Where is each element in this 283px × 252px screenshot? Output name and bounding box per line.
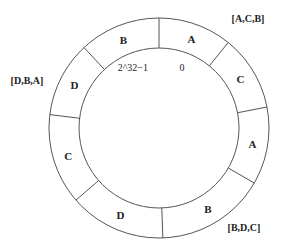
segment-divider — [76, 180, 99, 200]
replica-group-label: [D,B,A] — [11, 75, 44, 86]
segment-dividers — [50, 18, 267, 238]
replica-group-label: [A,C,B] — [232, 13, 265, 24]
segment-divider — [84, 48, 104, 70]
outer-ring — [49, 18, 269, 238]
segment-label-b: B — [204, 203, 212, 215]
segment-labels: ACABDCDB — [64, 33, 256, 221]
segment-label-b: B — [120, 34, 128, 46]
segment-label-c: C — [64, 150, 72, 162]
segment-divider — [162, 208, 163, 238]
segment-divider — [50, 115, 80, 119]
segment-label-a: A — [188, 33, 196, 45]
segment-divider — [209, 43, 228, 66]
hash-ring-diagram: ACABDCDB 2^32−1 0 [A,C,B][D,B,A][B,D,C] — [0, 0, 283, 252]
token-max-label: 2^32−1 — [118, 62, 148, 73]
segment-divider — [238, 107, 267, 113]
replica-group-label: [B,D,C] — [228, 222, 261, 233]
segment-label-c: C — [236, 73, 244, 85]
token-zero-label: 0 — [180, 62, 185, 73]
segment-label-d: D — [116, 209, 124, 221]
segment-divider — [228, 168, 254, 183]
segment-label-a: A — [249, 138, 257, 150]
segment-label-d: D — [70, 79, 78, 91]
inner-ring — [79, 48, 239, 208]
